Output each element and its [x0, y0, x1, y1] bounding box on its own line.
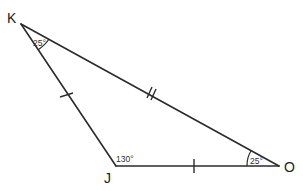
vertex-label-k: K [7, 10, 17, 26]
angle-label-k: 25° [33, 38, 46, 48]
vertex-label-j: J [104, 170, 111, 186]
side-ko [21, 24, 279, 166]
angle-label-o: 25° [250, 156, 263, 166]
tick-mark-kj [60, 93, 73, 97]
angle-label-j: 130° [116, 154, 134, 164]
vertex-label-o: O [284, 159, 295, 175]
triangle-diagram: 25° 130° 25° K J O [0, 0, 303, 191]
